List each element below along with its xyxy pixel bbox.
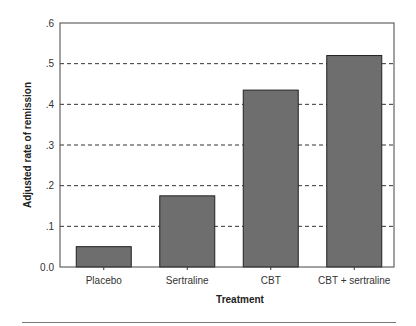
bar <box>160 196 215 267</box>
y-tick-labels: 0.0.1.2.3.4.5.6 <box>40 18 54 273</box>
x-category-label: Sertraline <box>166 275 209 286</box>
bar <box>76 247 131 267</box>
bar-chart: 0.0.1.2.3.4.5.6 PlaceboSertralineCBTCBT … <box>0 0 416 326</box>
x-category-label: Placebo <box>86 275 123 286</box>
y-tick-label: .1 <box>46 221 55 232</box>
y-axis-title: Adjusted rate of remission <box>22 82 33 208</box>
x-axis-title: Treatment <box>216 294 264 305</box>
y-tick-label: .2 <box>46 180 55 191</box>
bar <box>243 90 298 267</box>
y-tick-label: 0.0 <box>40 262 54 273</box>
y-tick-label: .4 <box>46 99 55 110</box>
y-tick-label: .6 <box>46 18 55 29</box>
bar <box>327 56 382 267</box>
x-category-label: CBT <box>261 275 281 286</box>
y-tick-label: .3 <box>46 140 55 151</box>
x-category-label: CBT + sertraline <box>318 275 391 286</box>
x-category-labels: PlaceboSertralineCBTCBT + sertraline <box>86 275 391 286</box>
bottom-rule <box>22 322 396 323</box>
y-tick-label: .5 <box>46 58 55 69</box>
bars <box>76 56 382 267</box>
